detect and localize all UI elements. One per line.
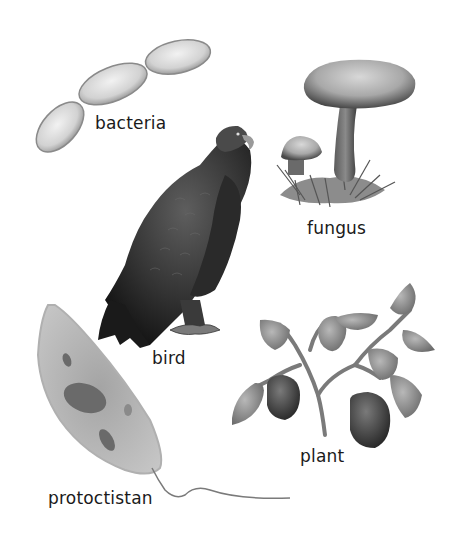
bacteria-illustration <box>27 34 213 160</box>
label-bird: bird <box>152 350 186 367</box>
bird-illustration <box>98 126 254 348</box>
organism-diagram: bacteria fungus bird plant protoctistan <box>0 0 465 540</box>
label-protoctistan: protoctistan <box>48 490 153 507</box>
label-fungus: fungus <box>307 220 366 237</box>
fungus-illustration <box>277 60 415 207</box>
illustration-layer <box>0 0 465 540</box>
plant-illustration <box>232 283 435 448</box>
label-bacteria: bacteria <box>95 115 166 132</box>
label-plant: plant <box>300 448 344 465</box>
